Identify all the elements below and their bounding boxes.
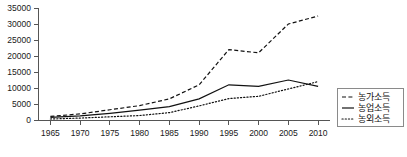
series-line-2: [50, 80, 318, 117]
y-tick-label: 5000: [12, 99, 31, 109]
y-axis: 05000100001500020000250003000035000: [7, 3, 38, 125]
x-tick-label: 2000: [249, 128, 268, 138]
series-group: [50, 16, 318, 119]
x-axis: 1965197019751980198519901995200020052010: [39, 121, 331, 139]
x-tick-label: 1975: [100, 128, 119, 138]
legend-label-1: 농가소득: [358, 92, 390, 102]
y-tick-label: 0: [26, 115, 31, 125]
legend-label-2: 농업소득: [358, 103, 390, 113]
x-tick-label: 1985: [160, 128, 179, 138]
y-tick-label: 30000: [7, 19, 31, 29]
y-tick-label: 25000: [7, 35, 31, 45]
line-chart: 05000100001500020000250003000035000 1965…: [0, 0, 407, 157]
x-tick-label: 2010: [309, 128, 328, 138]
y-axis-tick-labels: 05000100001500020000250003000035000: [7, 3, 31, 125]
x-tick-label: 1995: [219, 128, 238, 138]
series-line-3: [50, 82, 318, 119]
y-tick-label: 15000: [7, 67, 31, 77]
x-axis-ticks: [50, 121, 318, 126]
legend-label-3: 농외소득: [358, 113, 390, 124]
chart-legend: 농가소득농업소득농외소득: [338, 89, 404, 127]
x-tick-label: 1970: [71, 128, 90, 138]
y-tick-label: 10000: [7, 83, 31, 93]
x-tick-label: 1980: [130, 128, 149, 138]
chart-container: 05000100001500020000250003000035000 1965…: [0, 0, 407, 157]
y-axis-ticks: [34, 8, 39, 120]
x-axis-tick-labels: 1965197019751980198519901995200020052010: [41, 128, 328, 138]
x-tick-label: 2005: [279, 128, 298, 138]
legend-items: 농가소득농업소득농외소득: [342, 92, 390, 124]
y-tick-label: 20000: [7, 51, 31, 61]
x-tick-label: 1965: [41, 128, 60, 138]
series-line-1: [50, 16, 318, 116]
y-tick-label: 35000: [7, 3, 31, 13]
x-tick-label: 1990: [190, 128, 209, 138]
